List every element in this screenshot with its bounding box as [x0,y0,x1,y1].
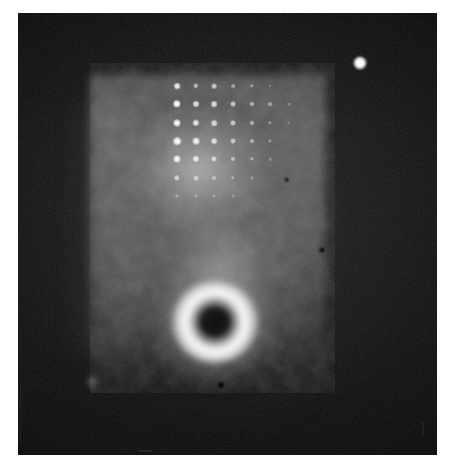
plate-scratch-bottom [138,450,152,452]
annulus-dark-core [201,309,229,335]
figure-page [0,0,454,476]
bright-annulus [172,279,258,365]
plate-scratch-left [20,385,21,445]
plate-scratch-right [422,421,424,435]
dark-speck-below-annulus [218,382,224,388]
faint-spot-lower-left [85,375,99,389]
isolated-bright-spot [354,57,367,70]
photographic-plate [18,13,437,455]
